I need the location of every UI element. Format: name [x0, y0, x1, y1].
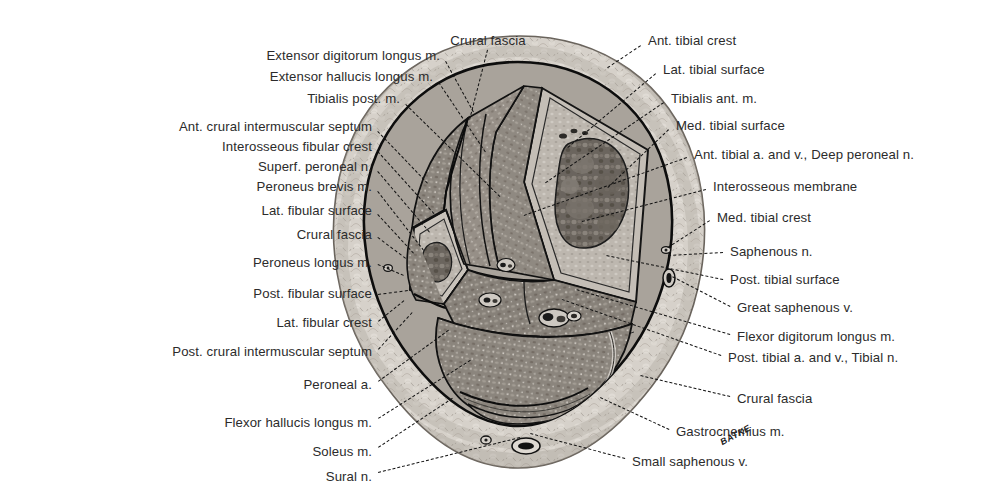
- label-tibialis-post-m: Tibialis post. m.: [307, 91, 400, 106]
- label-soleus-m: Soleus m.: [312, 444, 372, 459]
- label-post-tibial-a-and-v-tibial-n: Post. tibial a. and v., Tibial n.: [728, 350, 898, 365]
- label-superf-peroneal-n: Superf. peroneal n.: [258, 159, 372, 174]
- label-small-saphenous-v: Small saphenous v.: [632, 454, 748, 469]
- label-crural-fascia: Crural fascia: [450, 33, 525, 48]
- label-gastrocnemius-m: Gastrocnemius m.: [676, 424, 785, 439]
- label-great-saphenous-v: Great saphenous v.: [737, 300, 853, 315]
- label-ant-tibial-a-and-v-deep-peroneal-n: Ant. tibial a. and v., Deep peroneal n.: [694, 147, 914, 162]
- label-med-tibial-surface: Med. tibial surface: [676, 118, 785, 133]
- label-ant-crural-intermuscular-septum: Ant. crural intermuscular septum: [179, 119, 372, 134]
- label-extensor-hallucis-longus-m: Extensor hallucis longus m.: [270, 69, 433, 84]
- label-peroneus-brevis-m: Peroneus brevis m.: [257, 179, 372, 194]
- label-crural-fascia: Crural fascia: [737, 391, 812, 406]
- label-post-crural-intermuscular-septum: Post. crural intermuscular septum: [172, 344, 372, 359]
- label-flexor-hallucis-longus-m: Flexor hallucis longus m.: [224, 415, 372, 430]
- label-ant-tibial-crest: Ant. tibial crest: [648, 33, 736, 48]
- label-interosseous-fibular-crest: Interosseous fibular crest: [222, 139, 372, 154]
- label-extensor-digitorum-longus-m: Extensor digitorum longus m.: [266, 48, 440, 63]
- label-peroneal-a: Peroneal a.: [303, 377, 372, 392]
- figure-canvas: BATKE Extensor digitorum longus m.Extens…: [0, 0, 1005, 504]
- label-post-tibial-surface: Post. tibial surface: [730, 272, 840, 287]
- label-peroneus-longus-m: Peroneus longus m.: [253, 255, 372, 270]
- label-post-fibular-surface: Post. fibular surface: [253, 286, 372, 301]
- label-interosseous-membrane: Interosseous membrane: [713, 179, 857, 194]
- label-lat-fibular-crest: Lat. fibular crest: [276, 315, 372, 330]
- label-tibialis-ant-m: Tibialis ant. m.: [671, 91, 757, 106]
- label-med-tibial-crest: Med. tibial crest: [717, 210, 811, 225]
- label-lat-tibial-surface: Lat. tibial surface: [663, 62, 765, 77]
- label-flexor-digitorum-longus-m: Flexor digitorum longus m.: [737, 329, 895, 344]
- label-saphenous-n: Saphenous n.: [730, 244, 813, 259]
- label-lat-fibular-surface: Lat. fibular surface: [262, 203, 373, 218]
- label-crural-fascia: Crural fascia: [297, 227, 372, 242]
- label-sural-n: Sural n.: [326, 469, 372, 484]
